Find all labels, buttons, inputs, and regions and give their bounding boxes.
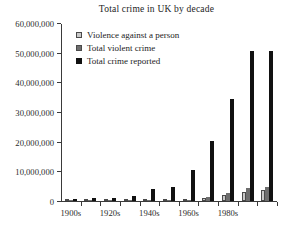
x-axis-tick <box>257 202 258 206</box>
bar <box>171 187 175 201</box>
bar <box>92 198 96 201</box>
y-axis-tick-label: 0 <box>50 197 54 207</box>
x-axis-tick <box>159 202 160 206</box>
bar <box>132 196 136 201</box>
legend-item-violence-against-a-person: Violence against a person <box>76 28 179 41</box>
bar-group <box>198 24 218 201</box>
bar-group <box>218 24 238 201</box>
x-axis-line <box>61 201 277 202</box>
x-axis-tick <box>179 202 180 206</box>
y-axis-tick-label: 50,000,000 <box>15 49 54 59</box>
legend-item-label: Total violent crime <box>87 43 155 53</box>
y-axis-tick-label: 30,000,000 <box>15 108 54 118</box>
x-axis-tick <box>218 202 219 206</box>
y-axis-tick-label: 60,000,000 <box>15 19 54 29</box>
bar <box>230 99 234 201</box>
x-axis-tick-label: 1960s <box>178 208 199 218</box>
x-axis-tick <box>198 202 199 206</box>
bar-group <box>257 24 277 201</box>
bar <box>269 51 273 201</box>
bar-group <box>179 24 199 201</box>
legend-item-total-violent-crime: Total violent crime <box>76 41 179 54</box>
legend-swatch-icon <box>76 45 82 51</box>
y-axis-tick <box>57 201 61 202</box>
bar <box>191 170 195 201</box>
bar <box>250 51 254 201</box>
bar <box>151 189 155 201</box>
x-axis-tick <box>238 202 239 206</box>
x-axis-tick <box>277 202 278 206</box>
x-axis-tick <box>140 202 141 206</box>
x-axis-tick <box>100 202 101 206</box>
x-axis-tick-label: 1900s <box>61 208 82 218</box>
y-axis-tick-label: 20,000,000 <box>15 138 54 148</box>
legend-item-label: Violence against a person <box>87 30 179 40</box>
x-axis-tick-label: 1920s <box>100 208 121 218</box>
legend-swatch-icon <box>76 58 82 64</box>
y-axis-tick-label: 10,000,000 <box>15 167 54 177</box>
x-axis-tick <box>81 202 82 206</box>
bar-group <box>238 24 258 201</box>
crime-bar-chart: Total crime in UK by decade 010,000,0002… <box>0 0 289 240</box>
bar <box>112 198 116 201</box>
legend-item-total-crime-reported: Total crime reported <box>76 54 179 67</box>
legend-item-label: Total crime reported <box>87 56 160 66</box>
bar <box>73 199 77 201</box>
y-axis-tick-label: 40,000,000 <box>15 78 54 88</box>
x-axis-tick-label: 1980s <box>218 208 239 218</box>
chart-legend: Violence against a person Total violent … <box>76 28 179 67</box>
bar <box>210 141 214 201</box>
x-axis-tick <box>120 202 121 206</box>
x-axis-tick-label: 1940s <box>139 208 160 218</box>
chart-title: Total crime in UK by decade <box>0 4 289 14</box>
legend-swatch-icon <box>76 32 82 38</box>
